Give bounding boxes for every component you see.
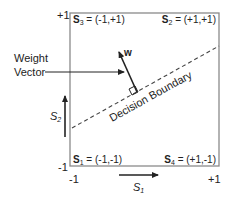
perceptron-diagram: Decision Boundary w Weight Vector S3 = (… xyxy=(0,0,232,200)
weight-vector-symbol: w xyxy=(123,47,132,58)
weight-vector-label-line1: Weight xyxy=(14,52,48,64)
s2-axis-label: S2 xyxy=(50,110,61,123)
tick-x-left: -1 xyxy=(69,173,79,185)
weight-vector-label-line2: Vector xyxy=(14,66,46,78)
corner-label-s4: S4 = (+1,-1) xyxy=(164,154,216,166)
corner-label-s1: S1 = (-1,-1) xyxy=(73,154,122,166)
tick-x-right: +1 xyxy=(208,173,221,185)
decision-boundary-label: Decision Boundary xyxy=(107,68,194,123)
s1-axis-label: S1 xyxy=(133,181,144,194)
decision-boundary-line xyxy=(72,46,219,128)
input-space-box xyxy=(70,13,219,166)
tick-y-top: +1 xyxy=(57,9,70,21)
corner-label-s2: S2 = (+1,+1) xyxy=(162,14,216,26)
tick-y-bottom: -1 xyxy=(58,161,68,173)
corner-label-s3: S3 = (-1,+1) xyxy=(73,14,125,26)
